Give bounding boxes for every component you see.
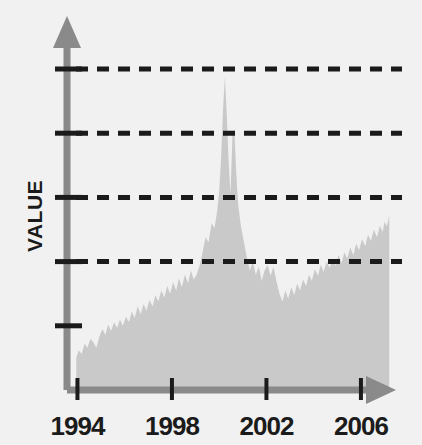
chart-container: 1994199820022006 VALUE (0, 0, 422, 445)
y-axis-title: VALUE (23, 180, 46, 252)
x-axis-tick-label-2: 2002 (240, 411, 294, 441)
x-axis-tick-label-3: 2006 (334, 411, 388, 441)
value-over-time-area-chart: 1994199820022006 VALUE (0, 0, 422, 445)
x-axis-tick-label-0: 1994 (51, 411, 106, 441)
x-axis-tick-label-1: 1998 (145, 411, 199, 441)
